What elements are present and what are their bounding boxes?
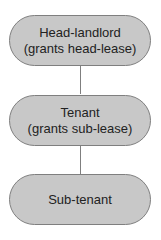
node-tenant: Tenant (grants sub-lease) [9, 95, 151, 146]
connector-tenant-to-sub-tenant [80, 146, 81, 174]
node-label: Tenant [60, 105, 99, 121]
node-sublabel: (grants sub-lease) [28, 121, 133, 137]
node-head-landlord: Head-landlord (grants head-lease) [9, 15, 151, 66]
node-label: Sub-tenant [48, 192, 112, 208]
node-sublabel: (grants head-lease) [24, 41, 137, 57]
connector-head-landlord-to-tenant [80, 66, 81, 94]
node-sub-tenant: Sub-tenant [9, 174, 151, 225]
node-label: Head-landlord [39, 25, 121, 41]
